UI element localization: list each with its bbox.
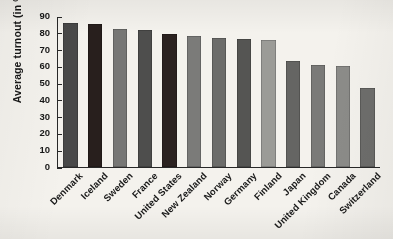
bar	[212, 38, 226, 167]
y-tick-label: 10	[39, 144, 50, 155]
chart-screenshot: Average turnout (in %) 01020304050607080…	[0, 0, 393, 239]
bar-slot	[63, 17, 77, 167]
bar-slot	[286, 17, 300, 167]
bar-slot	[212, 17, 226, 167]
bar-slot	[237, 17, 251, 167]
y-tick-label: 40	[39, 94, 50, 105]
y-tick-label: 80	[39, 27, 50, 38]
y-tick-label: 30	[39, 111, 50, 122]
bar-slot	[88, 17, 102, 167]
bar-slot	[138, 17, 152, 167]
x-label-denmark: Denmark	[48, 170, 85, 207]
bar-series	[58, 17, 379, 167]
bar-slot	[360, 17, 374, 167]
bar	[311, 65, 325, 167]
bar	[113, 29, 127, 167]
bar	[237, 39, 251, 167]
y-tick-label: 0	[45, 161, 50, 172]
y-tick-label: 20	[39, 127, 50, 138]
bar-slot	[336, 17, 350, 167]
plot-area: 0102030405060708090	[57, 17, 379, 168]
y-axis-title: Average turnout (in %)	[11, 0, 23, 121]
bar	[63, 23, 77, 167]
bar	[88, 24, 102, 167]
bar-slot	[311, 17, 325, 167]
bar	[286, 61, 300, 167]
y-tick-label: 90	[39, 10, 50, 21]
bar-slot	[187, 17, 201, 167]
y-tick-label: 50	[39, 77, 50, 88]
bar	[360, 88, 374, 167]
x-axis-category-labels: DenmarkIcelandSwedenFranceUnited StatesN…	[57, 170, 387, 239]
bar-slot	[113, 17, 127, 167]
bar	[336, 66, 350, 168]
bar-slot	[162, 17, 176, 167]
bar	[261, 40, 275, 168]
bar	[138, 30, 152, 167]
y-tick-mark	[58, 168, 62, 169]
y-tick-label: 60	[39, 60, 50, 71]
bar-slot	[261, 17, 275, 167]
y-tick-label: 70	[39, 44, 50, 55]
bar	[187, 36, 201, 167]
bar	[162, 34, 176, 167]
